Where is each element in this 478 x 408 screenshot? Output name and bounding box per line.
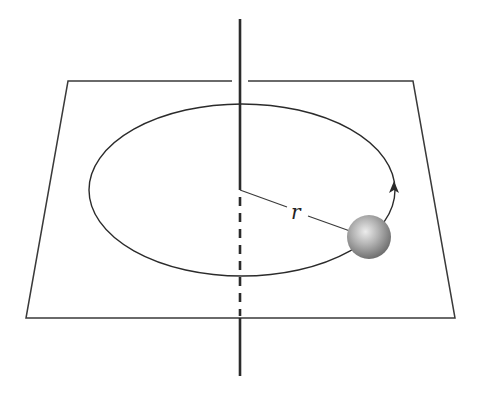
radius-line-2 [308,216,350,231]
circular-path [89,104,395,276]
radius-line-1 [240,190,287,207]
circular-motion-diagram: r [0,0,478,408]
direction-arrow-icon [389,181,399,193]
ball [347,215,391,259]
radius-label: r [291,200,302,224]
